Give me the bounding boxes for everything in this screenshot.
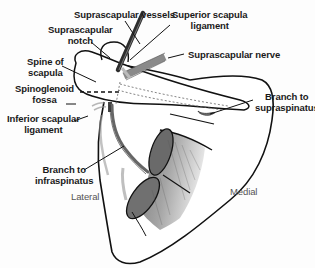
label-text: Medial	[230, 186, 257, 197]
label-text: scapula	[27, 67, 64, 78]
label-text: Lateral	[71, 191, 99, 202]
label-text: Inferior scapular	[7, 113, 80, 124]
label-text: infraspinatus	[35, 175, 93, 186]
label-text: Spinoglenoid	[15, 83, 74, 94]
label-branch-to-infraspinatus: Branch to infraspinatus	[35, 164, 93, 186]
label-superior-scapula-ligament: Superior scapula ligament	[172, 9, 247, 31]
label-text: Superior scapula	[172, 9, 247, 20]
label-lateral: Lateral	[71, 191, 99, 202]
label-suprascapular-vessels: Suprascapular vessels	[74, 9, 175, 20]
label-text: fossa	[15, 94, 74, 105]
label-inferior-scapular-ligament: Inferior scapular ligament	[7, 113, 80, 135]
label-text: Suprascapular vessels	[74, 9, 175, 20]
label-text: Suprascapular	[48, 24, 113, 35]
label-branch-to-supraspinatus: Branch to supraspinatus	[255, 91, 315, 113]
label-text: Branch to	[255, 91, 315, 102]
leader-suprascapular-nerve	[168, 54, 184, 58]
anatomy-diagram: Suprascapular vessels Superior scapula l…	[0, 0, 315, 268]
label-text: ligament	[172, 20, 247, 31]
label-suprascapular-nerve: Suprascapular nerve	[188, 49, 280, 60]
label-spine-of-scapula: Spine of scapula	[27, 56, 64, 78]
label-suprascapular-notch: Suprascapular notch	[48, 24, 113, 46]
label-text: Suprascapular nerve	[188, 49, 280, 60]
label-text: Spine of	[27, 56, 64, 67]
label-spinoglenoid-fossa: Spinoglenoid fossa	[15, 83, 74, 105]
label-text: Branch to	[35, 164, 93, 175]
label-text: supraspinatus	[255, 102, 315, 113]
label-text: ligament	[7, 124, 80, 135]
vessels-highlight	[119, 13, 144, 70]
suprascapular-vessels	[118, 13, 143, 70]
label-text: notch	[48, 35, 113, 46]
label-medial: Medial	[230, 186, 257, 197]
